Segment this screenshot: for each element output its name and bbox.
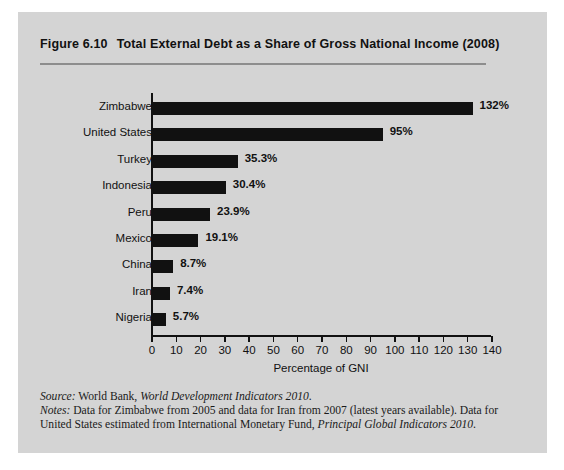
x-axis-tick-label: 60: [291, 344, 304, 356]
x-axis-tick: [200, 336, 201, 342]
notes-publication: Principal Global Indicators 2010: [318, 418, 474, 431]
bar-row: Zimbabwe132%: [18, 97, 547, 123]
notes-line: Notes: Data for Zimbabwe from 2005 and d…: [40, 404, 530, 432]
x-axis-tick-label: 0: [149, 344, 155, 356]
source-publication: World Development Indicators 2010: [140, 390, 309, 403]
bar-value-label: 19.1%: [205, 231, 238, 243]
bar-row: United States95%: [18, 123, 547, 149]
bar-row: China8.7%: [18, 255, 547, 281]
bar-chart: Zimbabwe132%United States95%Turkey35.3%I…: [18, 12, 547, 453]
x-axis-tick-label: 40: [243, 344, 256, 356]
bar: [152, 181, 226, 194]
bar-value-label: 35.3%: [245, 152, 278, 164]
bar-category-label: Turkey: [32, 153, 152, 165]
bar-row: Iran7.4%: [18, 282, 547, 308]
bar-value-label: 7.4%: [177, 284, 203, 296]
x-axis-tick: [346, 336, 347, 342]
bar-row: Nigeria5.7%: [18, 308, 547, 334]
x-axis-tick-label: 110: [410, 344, 428, 356]
bar-category-label: Nigeria: [32, 311, 152, 323]
x-axis-tick: [297, 336, 298, 342]
figure-panel: Figure 6.10Total External Debt as a Shar…: [18, 12, 547, 453]
bar-row: Indonesia30.4%: [18, 176, 547, 202]
x-axis-tick: [224, 336, 225, 342]
x-axis-tick-label: 50: [267, 344, 280, 356]
x-axis-tick: [370, 336, 371, 342]
x-axis-tick: [176, 336, 177, 342]
x-axis-tick-label: 70: [316, 344, 329, 356]
x-axis-tick-label: 100: [385, 344, 404, 356]
bar-category-label: United States: [32, 126, 152, 138]
x-axis-tick-label: 120: [434, 344, 453, 356]
bar-category-label: Iran: [32, 285, 152, 297]
figure-footnotes: Source: World Bank, World Development In…: [40, 390, 530, 433]
x-axis-tick-label: 130: [458, 344, 477, 356]
x-axis-tick-label: 10: [170, 344, 183, 356]
x-axis-tick: [151, 336, 152, 342]
bar-value-label: 95%: [390, 125, 413, 137]
bar-value-label: 23.9%: [217, 205, 250, 217]
x-axis-tick: [394, 336, 395, 342]
x-axis-title: Percentage of GNI: [151, 362, 491, 374]
bar-category-label: Indonesia: [32, 179, 152, 191]
bar-category-label: Peru: [32, 206, 152, 218]
notes-text-end: .: [473, 418, 476, 431]
notes-label: Notes:: [40, 404, 70, 417]
bar-value-label: 132%: [480, 99, 509, 111]
bar: [152, 128, 383, 141]
x-axis-tick-label: 80: [340, 344, 353, 356]
x-axis-tick-label: 90: [364, 344, 377, 356]
source-label: Source:: [40, 390, 76, 403]
bar-category-label: Zimbabwe: [32, 100, 152, 112]
x-axis-tick-label: 140: [482, 344, 501, 356]
x-axis-tick: [248, 336, 249, 342]
x-axis-tick: [491, 336, 492, 342]
bar-row: Peru23.9%: [18, 203, 547, 229]
x-axis-tick: [273, 336, 274, 342]
bar-row: Mexico19.1%: [18, 229, 547, 255]
bar-value-label: 8.7%: [180, 257, 206, 269]
source-text-end: .: [309, 390, 312, 403]
bar: [152, 208, 210, 221]
bar: [152, 260, 173, 273]
bar-value-label: 30.4%: [233, 178, 266, 190]
bar: [152, 313, 166, 326]
bar: [152, 234, 198, 247]
bar-category-label: Mexico: [32, 232, 152, 244]
source-line: Source: World Bank, World Development In…: [40, 390, 530, 404]
source-text: World Bank,: [76, 390, 141, 403]
x-axis-tick: [321, 336, 322, 342]
x-axis-tick-label: 20: [194, 344, 207, 356]
bar: [152, 155, 238, 168]
bar: [152, 287, 170, 300]
x-axis-tick: [418, 336, 419, 342]
x-axis-tick-label: 30: [218, 344, 231, 356]
x-axis-tick: [443, 336, 444, 342]
x-axis-tick: [467, 336, 468, 342]
bar: [152, 102, 473, 115]
bar-row: Turkey35.3%: [18, 150, 547, 176]
bar-category-label: China: [32, 258, 152, 270]
bar-value-label: 5.7%: [173, 310, 199, 322]
